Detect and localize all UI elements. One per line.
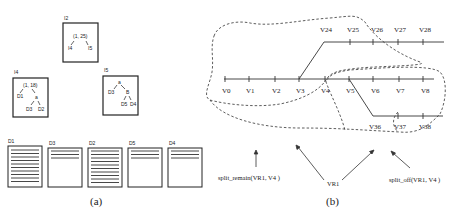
page-title-d4: D4 bbox=[169, 140, 176, 146]
label-v26: V26 bbox=[371, 26, 384, 34]
node-mid-i4: a bbox=[35, 94, 38, 100]
node-leaf-d3: D3 bbox=[26, 106, 33, 112]
data-page-d1: D1 bbox=[8, 138, 42, 187]
bottom-version-line bbox=[349, 79, 443, 119]
tree-node-i5: I5 a D3 B D5 D4 bbox=[103, 67, 138, 115]
label-v24: V24 bbox=[320, 26, 333, 34]
label-v6: V6 bbox=[371, 87, 380, 95]
caption-a: (a) bbox=[90, 195, 103, 208]
label-v2: V2 bbox=[272, 87, 281, 95]
vr1-label: VR1 bbox=[327, 180, 339, 187]
data-page-d2: D2 bbox=[88, 140, 122, 187]
node-title-i5: I5 bbox=[104, 67, 108, 73]
label-v3: V3 bbox=[296, 87, 305, 95]
figure-canvas: I2 (1, 25) I4 I5 I4 (1, 18) D1 a D3 D2 I… bbox=[0, 0, 468, 213]
label-v38: V38 bbox=[419, 123, 432, 131]
page-title-d2: D2 bbox=[89, 140, 96, 146]
label-v7: V7 bbox=[396, 87, 405, 95]
split-remain-label: split_remain(VR1, V4 ) bbox=[218, 174, 280, 182]
top-version-line bbox=[299, 39, 444, 79]
split-off-label: split_off(VR1, V4 ) bbox=[389, 176, 440, 184]
page-title-d5: D5 bbox=[129, 140, 136, 146]
label-v8: V8 bbox=[421, 87, 430, 95]
page-title-d1: D1 bbox=[8, 138, 15, 144]
label-v28: V28 bbox=[419, 26, 432, 34]
data-page-d5: D5 bbox=[128, 140, 162, 187]
node-left-i5: D3 bbox=[108, 89, 115, 95]
page-title-d3: D3 bbox=[49, 140, 56, 146]
mid-version-labels: V0 V1 V2 V3 V4 V5 V6 V7 V8 bbox=[222, 87, 430, 95]
node-root-i5: a bbox=[118, 79, 121, 85]
bottom-version-labels: V36 V37 V38 bbox=[369, 123, 432, 131]
top-version-labels: V24 V25 V26 V27 V28 bbox=[320, 26, 432, 34]
label-v4: V4 bbox=[321, 87, 330, 95]
node-leaf-d5: D5 bbox=[121, 101, 128, 107]
data-page-d4: D4 bbox=[168, 140, 202, 187]
node-title-i4: I4 bbox=[14, 69, 18, 75]
caption-b: (b) bbox=[326, 195, 339, 208]
label-v27: V27 bbox=[394, 26, 407, 34]
node-child-i4: I4 bbox=[68, 45, 72, 51]
label-v36: V36 bbox=[369, 123, 382, 131]
node-leaf-d2: D2 bbox=[38, 106, 45, 112]
tree-node-i2: I2 (1, 25) I4 I5 bbox=[63, 15, 98, 62]
data-page-d3: D3 bbox=[48, 140, 82, 187]
node-mid-i5: B bbox=[126, 89, 130, 95]
node-root-i2: (1, 25) bbox=[73, 33, 88, 39]
node-left-i4: D1 bbox=[17, 93, 24, 99]
node-root-i4: (1, 18) bbox=[23, 82, 38, 88]
label-v25: V25 bbox=[347, 26, 360, 34]
mid-version-line bbox=[224, 76, 434, 82]
node-title-i2: I2 bbox=[64, 15, 68, 21]
label-v1: V1 bbox=[246, 87, 255, 95]
label-v0: V0 bbox=[222, 87, 231, 95]
label-v5: V5 bbox=[346, 87, 355, 95]
node-child-i5: I5 bbox=[88, 45, 92, 51]
node-leaf-d4: D4 bbox=[130, 101, 137, 107]
tree-node-i4: I4 (1, 18) D1 a D3 D2 bbox=[13, 69, 48, 117]
